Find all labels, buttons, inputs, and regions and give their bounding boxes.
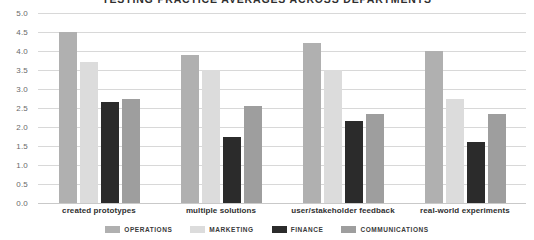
bar[interactable]	[303, 43, 321, 203]
bar-group	[282, 13, 404, 203]
legend-item[interactable]: FINANCE	[272, 226, 324, 233]
legend-item[interactable]: OPERATIONS	[105, 226, 172, 233]
x-axis-labels: created prototypesmultiple solutionsuser…	[38, 206, 526, 215]
bar-group	[38, 13, 160, 203]
bar-group-bars	[282, 13, 404, 203]
y-axis-tick-label: 5.0	[16, 9, 28, 18]
y-axis: 0.00.51.01.52.02.53.03.54.04.55.0	[0, 13, 34, 203]
legend-swatch-icon	[105, 226, 120, 233]
bar[interactable]	[122, 99, 140, 204]
bar[interactable]	[101, 102, 119, 203]
bar-group	[160, 13, 282, 203]
bar[interactable]	[59, 32, 77, 203]
bar[interactable]	[324, 70, 342, 203]
y-axis-tick-label: 3.0	[16, 85, 28, 94]
chart-legend: OPERATIONSMARKETINGFINANCECOMMUNICATIONS	[0, 226, 534, 233]
bar[interactable]	[488, 114, 506, 203]
y-axis-tick-label: 1.5	[16, 142, 28, 151]
x-axis-label: created prototypes	[38, 206, 160, 215]
gridline	[38, 203, 526, 204]
x-axis-label: real-world experiments	[404, 206, 526, 215]
bar[interactable]	[446, 99, 464, 204]
bar-group-bars	[404, 13, 526, 203]
bar[interactable]	[345, 121, 363, 203]
bar[interactable]	[425, 51, 443, 203]
legend-label: FINANCE	[291, 226, 324, 233]
legend-swatch-icon	[341, 226, 356, 233]
legend-swatch-icon	[272, 226, 287, 233]
bar[interactable]	[244, 106, 262, 203]
legend-label: MARKETING	[209, 226, 253, 233]
legend-swatch-icon	[190, 226, 205, 233]
y-axis-tick-label: 4.0	[16, 47, 28, 56]
chart-title: TESTING PRACTICE AVERAGES ACROSS DEPARTM…	[0, 0, 534, 5]
bar-group-bars	[38, 13, 160, 203]
bar-groups	[38, 13, 526, 203]
legend-label: OPERATIONS	[124, 226, 172, 233]
y-axis-tick-label: 3.5	[16, 66, 28, 75]
y-axis-tick-label: 4.5	[16, 28, 28, 37]
x-axis-label: user/stakeholder feedback	[282, 206, 404, 215]
bar[interactable]	[202, 70, 220, 203]
legend-label: COMMUNICATIONS	[360, 226, 428, 233]
bar-chart: TESTING PRACTICE AVERAGES ACROSS DEPARTM…	[0, 0, 534, 240]
bar-group	[404, 13, 526, 203]
bar[interactable]	[366, 114, 384, 203]
bar[interactable]	[181, 55, 199, 203]
y-axis-tick-label: 0.5	[16, 180, 28, 189]
plot-area	[38, 13, 526, 203]
y-axis-tick-label: 0.0	[16, 199, 28, 208]
y-axis-tick-label: 1.0	[16, 161, 28, 170]
y-axis-tick-label: 2.5	[16, 104, 28, 113]
y-axis-tick-label: 2.0	[16, 123, 28, 132]
bar[interactable]	[80, 62, 98, 203]
legend-item[interactable]: MARKETING	[190, 226, 253, 233]
legend-item[interactable]: COMMUNICATIONS	[341, 226, 428, 233]
bar[interactable]	[467, 142, 485, 203]
bar-group-bars	[160, 13, 282, 203]
bar[interactable]	[223, 137, 241, 204]
x-axis-label: multiple solutions	[160, 206, 282, 215]
